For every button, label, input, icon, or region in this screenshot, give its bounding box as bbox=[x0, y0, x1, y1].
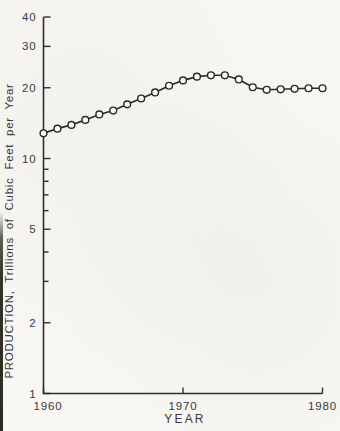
data-point bbox=[319, 85, 326, 92]
y-tick-label: 1 bbox=[29, 388, 36, 400]
gas-production-chart: 12510203040 196019701980 PRODUCTION, Tri… bbox=[0, 0, 340, 431]
data-point bbox=[166, 82, 173, 89]
data-point bbox=[54, 125, 61, 132]
data-point bbox=[180, 77, 187, 84]
data-point bbox=[96, 111, 103, 118]
axis-lines bbox=[44, 17, 323, 393]
y-tick-label: 20 bbox=[22, 82, 36, 94]
data-series bbox=[40, 72, 326, 137]
data-point bbox=[110, 107, 117, 114]
data-point bbox=[40, 130, 47, 137]
x-axis-title: YEAR bbox=[164, 412, 205, 426]
data-point bbox=[291, 85, 298, 92]
x-axis-ticks: 196019701980 bbox=[34, 388, 337, 412]
y-tick-label: 30 bbox=[22, 40, 36, 52]
data-point bbox=[208, 72, 215, 79]
data-point bbox=[221, 72, 228, 79]
y-tick-label: 40 bbox=[22, 11, 36, 23]
y-axis-title: PRODUCTION, Trillions of Cubic Feet per … bbox=[3, 83, 15, 378]
data-point bbox=[124, 101, 131, 108]
data-point bbox=[235, 76, 242, 83]
y-tick-label: 10 bbox=[22, 153, 36, 165]
data-point bbox=[138, 95, 145, 102]
x-tick-label: 1970 bbox=[169, 400, 198, 412]
data-point bbox=[82, 116, 89, 123]
y-tick-label: 5 bbox=[29, 223, 36, 235]
data-point bbox=[68, 121, 75, 128]
y-axis-ticks: 12510203040 bbox=[22, 11, 50, 399]
data-point bbox=[305, 85, 312, 92]
scanned-figure-page: 12510203040 196019701980 PRODUCTION, Tri… bbox=[0, 0, 340, 431]
y-tick-label: 2 bbox=[29, 317, 36, 329]
data-point bbox=[277, 86, 284, 93]
data-point bbox=[194, 73, 201, 80]
data-point bbox=[249, 84, 256, 91]
data-point bbox=[152, 89, 159, 96]
axes bbox=[44, 17, 323, 393]
x-tick-label: 1980 bbox=[308, 400, 337, 412]
x-tick-label: 1960 bbox=[34, 400, 63, 412]
data-point bbox=[263, 86, 270, 93]
